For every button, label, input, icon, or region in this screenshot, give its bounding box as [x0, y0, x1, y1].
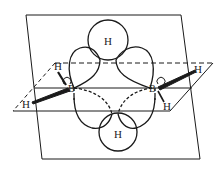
bond-lobe-right-bottom-solid: [118, 96, 155, 128]
horizontal-plane-right-edge: [170, 63, 213, 111]
bond-lobe-left-bottom-solid: [74, 96, 112, 128]
bond-lobe-left-bottom-dashed: [74, 88, 112, 114]
wedge-bond-left-lower: [32, 88, 70, 104]
vertical-plane: [26, 15, 200, 159]
label-terminal-h-left-lower: H: [22, 98, 30, 110]
bond-lobe-left-top: [69, 47, 100, 88]
label-boron-left: B: [68, 83, 75, 94]
diborane-diagram: H H B B H H H H: [0, 0, 222, 170]
small-orbital-right: [157, 77, 165, 84]
label-terminal-h-right-lower: H: [163, 100, 171, 112]
label-bridge-h-bottom: H: [114, 128, 122, 140]
label-boron-right: B: [149, 83, 156, 94]
label-bridge-h-top: H: [104, 35, 112, 47]
diborane-svg: H H B B H H H H: [0, 0, 222, 170]
label-terminal-h-right-upper: H: [194, 63, 202, 75]
label-terminal-h-left-upper: H: [54, 60, 62, 72]
bond-lobe-right-top: [116, 47, 153, 88]
